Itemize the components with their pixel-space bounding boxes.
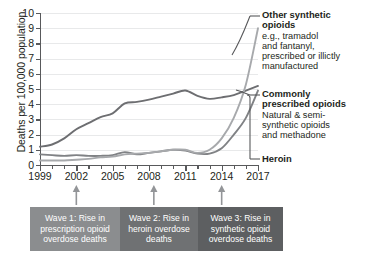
wave-box-line: overdose deaths bbox=[40, 234, 110, 245]
wave-box-line: Wave 2: Rise in bbox=[128, 213, 190, 224]
wave-arrow bbox=[218, 185, 225, 205]
wave-box: Wave 1: Rise inprescription opioidoverdo… bbox=[30, 207, 120, 251]
wave-box-line: deaths bbox=[128, 234, 190, 245]
wave-box-line: Wave 1: Rise in bbox=[40, 213, 110, 224]
wave-box: Wave 3: Rise insynthetic opioidoverdose … bbox=[198, 207, 283, 251]
wave-arrow bbox=[150, 185, 157, 205]
wave-box-line: Wave 3: Rise in bbox=[209, 213, 273, 224]
wave-box-line: synthetic opioid bbox=[209, 224, 273, 235]
chart-figure: Deaths per 100,000 population 0123456789… bbox=[0, 0, 381, 259]
wave-boxes: Wave 1: Rise inprescription opioidoverdo… bbox=[30, 207, 283, 251]
wave-box-line: overdose deaths bbox=[209, 234, 273, 245]
wave-box-line: heroin overdose bbox=[128, 224, 190, 235]
wave-arrow bbox=[73, 185, 80, 205]
wave-box-line: prescription opioid bbox=[40, 224, 110, 235]
wave-box: Wave 2: Rise inheroin overdosedeaths bbox=[120, 207, 198, 251]
